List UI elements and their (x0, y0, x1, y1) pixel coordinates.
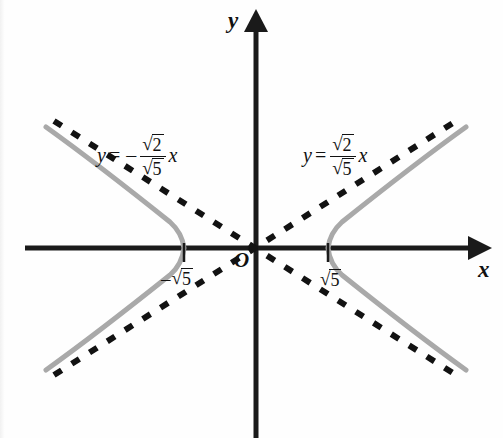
asym-left-equals: = (109, 145, 120, 165)
asym-right-denominator: √ 5 (330, 157, 355, 179)
vertex-label-right: √ 5 (320, 268, 341, 290)
asym-left-minus: – (126, 145, 136, 165)
asym-right-numerator: √ 2 (330, 134, 355, 157)
asym-left-lhs: y (97, 145, 106, 165)
y-axis-arrowhead (244, 9, 268, 32)
figure-canvas (0, 0, 503, 438)
vertex-right-radical: √ 5 (320, 269, 341, 290)
y-axis-label: y (228, 9, 238, 32)
asym-right-fraction: √ 2 √ 5 (330, 134, 355, 179)
asym-left-denominator-radicand: 5 (152, 158, 164, 179)
asym-left-numerator-radicand: 2 (152, 134, 164, 155)
asym-right-variable: x (359, 145, 368, 165)
asym-left-numerator: √ 2 (140, 134, 165, 157)
asym-right-denominator-radicand: 5 (342, 158, 354, 179)
asym-right-lhs: y (303, 145, 312, 165)
asym-left-variable: x (169, 145, 178, 165)
origin-label: O (234, 250, 249, 271)
asymptote-equation-left: y = – √ 2 √ 5 x (97, 133, 178, 178)
y-axis (244, 9, 268, 438)
asym-left-denominator: √ 5 (140, 157, 165, 179)
vertex-left-radical: √ 5 (172, 268, 193, 289)
asym-right-equals: = (315, 145, 326, 165)
x-axis-label: x (478, 258, 490, 281)
vertex-right-radicand: 5 (329, 269, 341, 290)
vertex-label-left: – √ 5 (161, 268, 193, 289)
asymptote-equation-right: y = √ 2 √ 5 x (303, 133, 368, 178)
hyperbola-figure: y x O – √ 5 √ 5 y = – √ (0, 0, 503, 438)
asym-right-numerator-radicand: 2 (342, 134, 354, 155)
vertex-left-minus-sign: – (161, 269, 171, 288)
vertex-left-radicand: 5 (181, 268, 193, 289)
asym-left-fraction: √ 2 √ 5 (140, 134, 165, 179)
